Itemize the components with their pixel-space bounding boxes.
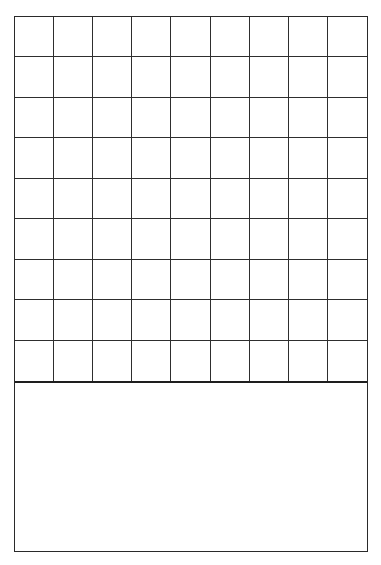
- grid-cell: [328, 219, 367, 259]
- grid-cell: [54, 17, 93, 57]
- grid-cell: [93, 219, 132, 259]
- grid-cell: [328, 138, 367, 178]
- grid-cell: [328, 300, 367, 340]
- empty-notes-box: [15, 383, 367, 551]
- grid-cell: [93, 300, 132, 340]
- grid-cell: [250, 98, 289, 138]
- grid-cell: [54, 98, 93, 138]
- grid-cell: [93, 260, 132, 300]
- grid-cell: [15, 219, 54, 259]
- grid-table: [15, 17, 367, 383]
- grid-cell: [171, 341, 210, 381]
- grid-cell: [171, 260, 210, 300]
- grid-cell: [93, 341, 132, 381]
- grid-cell: [171, 219, 210, 259]
- grid-cell: [211, 219, 250, 259]
- grid-cell: [328, 98, 367, 138]
- grid-cell: [211, 98, 250, 138]
- grid-cell: [54, 179, 93, 219]
- grid-cell: [132, 219, 171, 259]
- grid-cell: [211, 17, 250, 57]
- grid-cell: [250, 300, 289, 340]
- grid-cell: [328, 17, 367, 57]
- grid-cell: [289, 17, 328, 57]
- grid-cell: [132, 179, 171, 219]
- grid-cell: [54, 260, 93, 300]
- grid-cell: [15, 341, 54, 381]
- grid-cell: [171, 138, 210, 178]
- grid-cell: [93, 179, 132, 219]
- grid-cell: [289, 300, 328, 340]
- grid-cell: [54, 300, 93, 340]
- grid-cell: [15, 17, 54, 57]
- grid-cell: [15, 179, 54, 219]
- grid-cell: [328, 179, 367, 219]
- grid-cell: [54, 219, 93, 259]
- grid-cell: [93, 57, 132, 97]
- grid-cell: [15, 138, 54, 178]
- grid-cell: [15, 300, 54, 340]
- grid-cell: [211, 260, 250, 300]
- grid-cell: [54, 341, 93, 381]
- grid-cell: [289, 57, 328, 97]
- grid-cell: [250, 219, 289, 259]
- grid-cell: [15, 98, 54, 138]
- grid-cell: [289, 260, 328, 300]
- grid-cell: [250, 260, 289, 300]
- grid-cell: [171, 98, 210, 138]
- grid-cell: [211, 179, 250, 219]
- grid-cell: [289, 341, 328, 381]
- grid-cell: [250, 138, 289, 178]
- grid-cell: [250, 341, 289, 381]
- grid-cell: [171, 57, 210, 97]
- grid-cell: [93, 98, 132, 138]
- grid-cell: [54, 138, 93, 178]
- grid-cell: [211, 300, 250, 340]
- grid-cell: [171, 17, 210, 57]
- grid-cell: [171, 300, 210, 340]
- grid-cell: [211, 57, 250, 97]
- grid-cell: [93, 138, 132, 178]
- grid-cell: [328, 57, 367, 97]
- grid-cell: [15, 57, 54, 97]
- grid-cell: [250, 179, 289, 219]
- grid-cell: [15, 260, 54, 300]
- grid-cell: [250, 17, 289, 57]
- grid-cell: [211, 138, 250, 178]
- grid-cell: [211, 341, 250, 381]
- grid-cell: [328, 260, 367, 300]
- grid-cell: [132, 300, 171, 340]
- grid-cell: [132, 98, 171, 138]
- grid-cell: [132, 57, 171, 97]
- grid-cell: [132, 341, 171, 381]
- grid-cell: [171, 179, 210, 219]
- grid-cell: [289, 219, 328, 259]
- grid-cell: [132, 260, 171, 300]
- grid-cell: [328, 341, 367, 381]
- grid-cell: [54, 57, 93, 97]
- grid-cell: [132, 17, 171, 57]
- grid-sheet: [14, 16, 368, 552]
- grid-cell: [93, 17, 132, 57]
- grid-cell: [250, 57, 289, 97]
- grid-cell: [132, 138, 171, 178]
- grid-cell: [289, 179, 328, 219]
- grid-cell: [289, 138, 328, 178]
- grid-cell: [289, 98, 328, 138]
